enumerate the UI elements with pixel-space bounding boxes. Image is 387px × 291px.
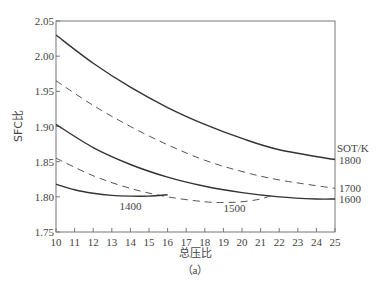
x-tick-label: 11: [69, 236, 80, 248]
y-axis-label: SFC比: [12, 110, 25, 142]
series-line-1400: [56, 184, 168, 196]
x-tick-label: 22: [274, 236, 285, 248]
series-label-1800: 1800: [339, 154, 362, 166]
sfc-ratio-chart: 1.751.801.851.901.952.002.05 10111213141…: [0, 0, 387, 291]
y-tick-label: 2.05: [35, 15, 55, 27]
x-tick-label: 15: [144, 236, 156, 248]
x-tick-label: 14: [125, 236, 137, 248]
x-tick-label: 12: [88, 236, 99, 248]
y-tick-label: 1.90: [35, 121, 55, 133]
figure-caption: （a）: [182, 264, 209, 276]
x-tick-label: 20: [237, 236, 249, 248]
y-tick-label: 1.85: [35, 156, 55, 168]
series-label-1600: 1600: [339, 193, 362, 205]
x-axis-ticks: 10111213141516171819202122232425: [51, 228, 342, 248]
x-tick-label: 23: [292, 236, 304, 248]
x-tick-label: 13: [106, 236, 118, 248]
legend-title: SOT/K: [337, 142, 369, 154]
x-tick-label: 16: [162, 236, 174, 248]
series-lines: [56, 35, 335, 202]
y-tick-label: 2.00: [35, 50, 55, 62]
x-tick-label: 10: [51, 236, 63, 248]
x-axis-label: 总压比: [179, 246, 212, 260]
series-line-1500: [56, 158, 275, 202]
annotation-1500: 1500: [224, 202, 247, 214]
x-tick-label: 24: [311, 236, 323, 248]
x-tick-label: 19: [218, 236, 230, 248]
y-tick-label: 1.80: [35, 191, 55, 203]
y-tick-label: 1.95: [35, 85, 55, 97]
series-labels: 18001700160014001500: [119, 154, 361, 215]
x-tick-label: 25: [330, 236, 342, 248]
series-line-1600: [56, 124, 335, 199]
x-tick-label: 21: [255, 236, 266, 248]
series-line-1800: [56, 35, 335, 159]
series-line-1700: [56, 81, 335, 189]
annotation-1400: 1400: [119, 200, 142, 212]
